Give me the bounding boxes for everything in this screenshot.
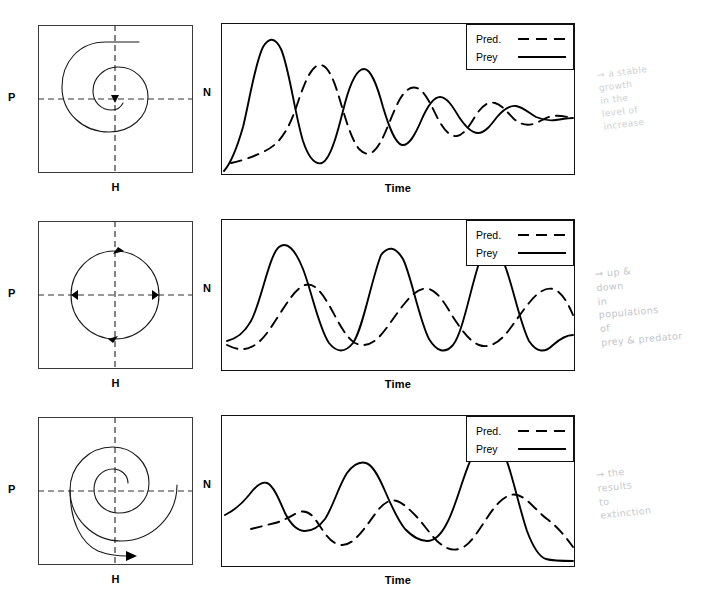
- phase-y-axis-label: P: [8, 287, 16, 299]
- timeseries-panel-unstable: Pred. Prey N Time: [221, 415, 575, 567]
- timeseries-panel-neutral: Pred. Prey N Time: [221, 219, 575, 371]
- timeseries-x-axis-label: Time: [221, 574, 575, 586]
- legend-entry-pred: Pred.: [476, 30, 566, 48]
- legend-label-prey: Prey: [476, 247, 510, 259]
- legend-entry-prey: Prey: [476, 244, 566, 262]
- phase-x-axis-label: H: [38, 377, 193, 389]
- handwritten-note-extinction: → the results to extinction: [595, 456, 712, 522]
- timeseries-y-axis-label: N: [203, 282, 211, 294]
- legend-entry-prey: Prey: [476, 440, 566, 458]
- figure-root: P H Pred. Prey: [0, 0, 718, 596]
- legend-label-prey: Prey: [476, 443, 510, 455]
- legend-neutral: Pred. Prey: [466, 220, 574, 266]
- legend-entry-prey: Prey: [476, 48, 566, 66]
- legend-label-pred: Pred.: [476, 33, 510, 45]
- phase-panel-neutral: P H: [38, 221, 193, 369]
- timeseries-x-axis-label: Time: [221, 378, 575, 390]
- legend-unstable: Pred. Prey: [466, 416, 574, 462]
- handwritten-note-stable-growth: → a stable growth in the level of increa…: [596, 55, 718, 134]
- orbit-arrow-right: [152, 290, 159, 300]
- phase-panel-damped: P H: [38, 25, 193, 173]
- phase-trajectory-outward-spiral: [38, 417, 193, 565]
- phase-y-axis-label: P: [8, 91, 16, 103]
- legend-entry-pred: Pred.: [476, 226, 566, 244]
- phase-trajectory-closed-orbit: [38, 221, 193, 369]
- phase-panel-unstable: P H: [38, 417, 193, 565]
- handwritten-note-up-down: → up & down in populations of prey & pre…: [595, 257, 718, 350]
- legend-label-pred: Pred.: [476, 229, 510, 241]
- timeseries-panel-damped: Pred. Prey N Time: [221, 23, 575, 175]
- legend-label-pred: Pred.: [476, 425, 510, 437]
- timeseries-y-axis-label: N: [203, 86, 211, 98]
- timeseries-x-axis-label: Time: [221, 182, 575, 194]
- orbit-arrow-left: [71, 290, 78, 300]
- phase-trajectory-inward-spiral: [38, 25, 193, 173]
- phase-x-axis-label: H: [38, 181, 193, 193]
- phase-y-axis-label: P: [8, 483, 16, 495]
- phase-x-axis-label: H: [38, 573, 193, 585]
- legend-label-prey: Prey: [476, 51, 510, 63]
- legend-damped: Pred. Prey: [466, 24, 574, 70]
- legend-entry-pred: Pred.: [476, 422, 566, 440]
- timeseries-y-axis-label: N: [203, 478, 211, 490]
